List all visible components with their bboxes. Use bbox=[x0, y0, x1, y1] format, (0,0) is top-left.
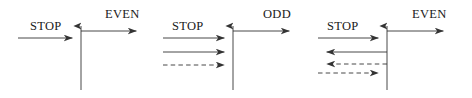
diagram-canvas bbox=[0, 0, 472, 98]
panel-3 bbox=[318, 26, 443, 90]
panel-2 bbox=[163, 26, 289, 90]
panel-2-odd-label: ODD bbox=[263, 8, 291, 21]
panel-3-even-label: EVEN bbox=[412, 8, 447, 21]
panel-3-stop-label: STOP bbox=[327, 20, 359, 33]
panel-2-stop-label: STOP bbox=[172, 20, 204, 33]
panel-1-stop-label: STOP bbox=[30, 20, 62, 33]
diagram-figure: STOPEVENSTOPODDSTOPEVEN bbox=[0, 0, 472, 98]
panel-1-even-label: EVEN bbox=[105, 8, 140, 21]
panel-1 bbox=[18, 26, 136, 90]
